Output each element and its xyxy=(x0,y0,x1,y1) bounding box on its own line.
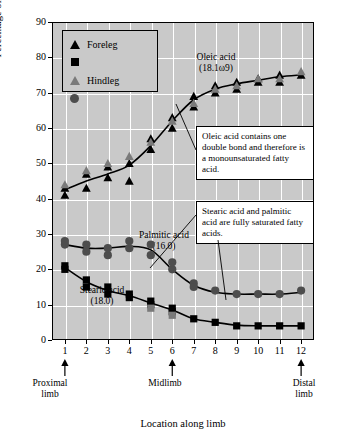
legend-item-foreleg-square xyxy=(70,53,157,71)
region-arrow-head xyxy=(61,359,68,366)
oleic-acid-code: (18.1ω9) xyxy=(199,63,233,73)
triangle-marker-grey-icon xyxy=(70,75,80,85)
y-tick-label: 30 xyxy=(20,229,46,239)
oleic-acid-name: Oleic acid xyxy=(197,52,236,62)
gridline-vertical xyxy=(281,23,282,339)
x-tick-mark xyxy=(215,340,216,344)
y-tick-label: 60 xyxy=(20,123,46,133)
y-tick-label: 40 xyxy=(20,194,46,204)
y-tick-mark xyxy=(48,128,52,129)
x-tick-mark xyxy=(258,340,259,344)
stearic-acid-code: (18.0) xyxy=(91,296,114,306)
y-tick-label: 90 xyxy=(20,17,46,27)
x-tick-mark xyxy=(151,340,152,344)
region-arrow-head xyxy=(298,359,305,366)
x-tick-mark xyxy=(86,340,87,344)
region-arrow-head xyxy=(169,359,176,366)
y-tick-mark xyxy=(48,163,52,164)
legend-label-hindleg: Hindleg xyxy=(87,75,119,86)
x-tick-mark xyxy=(129,340,130,344)
gridline-vertical xyxy=(302,23,303,339)
y-tick-mark xyxy=(48,269,52,270)
x-tick-label: 4 xyxy=(120,346,138,356)
x-tick-label: 2 xyxy=(77,346,95,356)
legend-item-foreleg-triangle: Foreleg xyxy=(70,35,157,53)
y-tick-label: 20 xyxy=(20,264,46,274)
legend-label-foreleg: Foreleg xyxy=(87,39,118,50)
circle-marker-icon xyxy=(70,93,80,103)
y-tick-mark xyxy=(48,234,52,235)
y-tick-mark xyxy=(48,93,52,94)
x-tick-mark xyxy=(65,340,66,344)
x-tick-mark xyxy=(172,340,173,344)
x-tick-label: 11 xyxy=(271,346,289,356)
triangle-marker-icon xyxy=(70,39,80,49)
palmitic-acid-code: (16.0) xyxy=(153,241,176,251)
region-distal-limb: Distal limb xyxy=(272,378,336,399)
x-tick-label: 6 xyxy=(163,346,181,356)
x-tick-label: 1 xyxy=(56,346,74,356)
x-tick-label: 3 xyxy=(99,346,117,356)
y-tick-label: 80 xyxy=(20,52,46,62)
gridline-vertical xyxy=(173,23,174,339)
palmitic-acid-name: Palmitic acid xyxy=(139,230,189,240)
y-tick-mark xyxy=(48,57,52,58)
legend-item-hindleg-circle xyxy=(70,89,157,107)
x-axis-title: Location along limb xyxy=(52,418,314,429)
chart-figure: Percentage of all fatty acids (%) 010203… xyxy=(0,0,345,442)
square-marker-icon xyxy=(70,57,80,67)
stearic-acid-label: Stearic acid (18.0) xyxy=(66,285,138,307)
saturated-callout: Stearic acid and palmitic acid are fully… xyxy=(196,201,314,244)
x-tick-mark xyxy=(237,340,238,344)
y-tick-mark xyxy=(48,305,52,306)
y-tick-label: 50 xyxy=(20,158,46,168)
legend: Foreleg Hindleg xyxy=(62,30,158,92)
y-tick-label: 70 xyxy=(20,88,46,98)
x-tick-label: 5 xyxy=(142,346,160,356)
gridline-vertical xyxy=(259,23,260,339)
region-midlimb: Midlimb xyxy=(133,378,197,389)
x-tick-mark xyxy=(194,340,195,344)
gridline-horizontal xyxy=(53,270,313,271)
y-tick-label: 10 xyxy=(20,300,46,310)
region-proximal-limb: Proximal limb xyxy=(18,378,82,399)
y-axis-title: Percentage of all fatty acids (%) xyxy=(0,0,3,100)
legend-item-hindleg-triangle: Hindleg xyxy=(70,71,157,89)
x-tick-mark xyxy=(108,340,109,344)
x-tick-label: 10 xyxy=(249,346,267,356)
x-tick-mark xyxy=(301,340,302,344)
x-tick-label: 12 xyxy=(292,346,310,356)
y-tick-mark xyxy=(48,199,52,200)
x-tick-label: 9 xyxy=(228,346,246,356)
y-tick-label: 0 xyxy=(20,335,46,345)
oleic-callout: Oleic acid contains one double bond and … xyxy=(196,126,314,180)
x-tick-label: 7 xyxy=(185,346,203,356)
palmitic-acid-label: Palmitic acid (16.0) xyxy=(126,230,202,252)
y-tick-mark xyxy=(48,340,52,341)
x-tick-label: 8 xyxy=(206,346,224,356)
stearic-acid-name: Stearic acid xyxy=(80,285,125,295)
oleic-acid-label: Oleic acid (18.1ω9) xyxy=(180,52,252,74)
y-tick-mark xyxy=(48,22,52,23)
x-tick-mark xyxy=(280,340,281,344)
